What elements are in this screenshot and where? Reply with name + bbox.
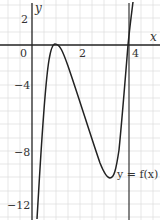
- tick-label-y-neg12: −12: [7, 199, 30, 212]
- tick-label-y-2: 2: [21, 13, 28, 26]
- y-axis-label: y: [34, 1, 42, 15]
- x-axis-label: x: [150, 30, 157, 44]
- tick-label-x-4: 4: [132, 47, 139, 60]
- tick-label-origin: 0: [20, 47, 27, 60]
- grid: [0, 0, 160, 220]
- function-graph: x y 0 2 4 2 −4 −8 −12 y = f(x): [0, 0, 160, 220]
- tick-label-x-2: 2: [79, 47, 86, 60]
- curve-f-of-x: [37, 2, 133, 219]
- tick-label-y-neg4: −4: [14, 79, 30, 92]
- curve-label: y = f(x): [116, 168, 158, 181]
- tick-label-y-neg8: −8: [14, 146, 30, 159]
